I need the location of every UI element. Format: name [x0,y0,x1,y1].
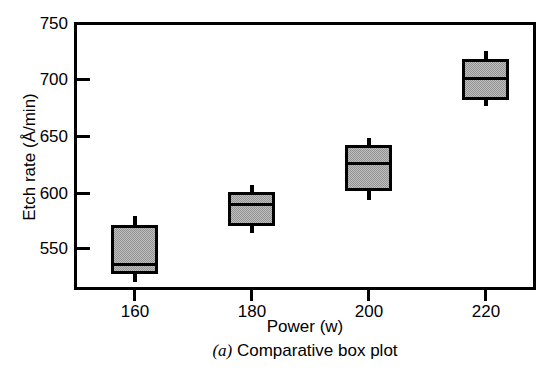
y-axis-label-container: Etch rate (Å/min) [21,32,45,282]
y-tick-label-750: 750 [22,15,68,32]
caption-part-text: Comparative box plot [232,341,397,360]
box-plot-figure: 750 700 650 600 550 160 180 200 220 Powe… [0,0,550,374]
figure-caption: (a) Comparative box plot [140,342,470,359]
x-axis-ticks [135,288,486,301]
x-axis-label: Power (w) [205,318,405,335]
box-plot-item-180 [230,185,274,233]
x-tick-label-160: 160 [105,303,165,320]
y-axis-ticks [75,80,90,249]
y-axis-label: Etch rate (Å/min) [21,32,38,282]
box-plot-item-200 [347,138,391,200]
caption-part-label: (a) [212,341,232,360]
box-plot-item-160 [113,216,157,282]
x-tick-label-220: 220 [456,303,516,320]
box-plot-item-220 [464,51,508,106]
